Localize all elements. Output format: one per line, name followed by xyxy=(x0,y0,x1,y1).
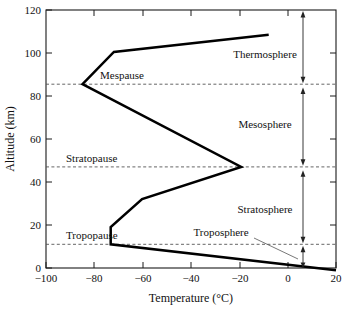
y-tick-label-120: 120 xyxy=(25,4,42,16)
annotation-tropopause: Tropopause xyxy=(66,229,118,241)
y-tick-label-80: 80 xyxy=(30,90,42,102)
y-tick-label-40: 40 xyxy=(30,176,42,188)
x-tick-label-n60: −60 xyxy=(134,272,152,284)
x-tick-label-20: 20 xyxy=(331,272,343,284)
y-tick-label-20: 20 xyxy=(30,219,42,231)
x-tick-label-n80: −80 xyxy=(85,272,103,284)
annotation-mespause: Mespause xyxy=(100,69,144,81)
annotation-stratopause: Stratopause xyxy=(66,152,117,164)
chart-background xyxy=(0,0,349,311)
x-axis-title: Temperature (°C) xyxy=(149,291,233,305)
atmosphere-temperature-profile-chart: 0 20 40 60 80 100 120 −100 −80 −60 −40 −… xyxy=(0,0,349,311)
y-axis-title: Altitude (km) xyxy=(3,106,17,172)
annotation-stratosphere: Stratosphere xyxy=(238,203,293,215)
x-tick-label-n40: −40 xyxy=(182,272,200,284)
x-tick-label-n100: −100 xyxy=(35,272,58,284)
annotation-troposphere: Troposphere xyxy=(193,226,248,238)
x-tick-label-n20: −20 xyxy=(231,272,249,284)
y-tick-label-60: 60 xyxy=(30,133,42,145)
chart-canvas: 0 20 40 60 80 100 120 −100 −80 −60 −40 −… xyxy=(0,0,349,311)
annotation-mesosphere: Mesosphere xyxy=(238,118,291,130)
annotation-thermosphere: Thermosphere xyxy=(233,48,297,60)
y-tick-label-100: 100 xyxy=(25,47,42,59)
x-tick-label-0: 0 xyxy=(285,272,291,284)
